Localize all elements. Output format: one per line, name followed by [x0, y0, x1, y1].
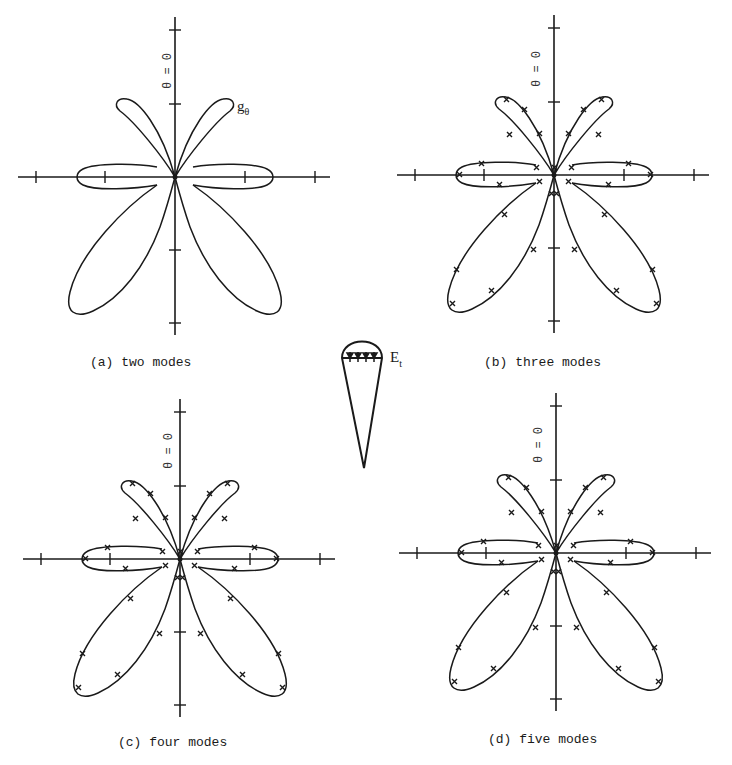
caption-b: (b) three modes: [484, 355, 601, 370]
caption-d: (d) five modes: [488, 732, 597, 747]
panel-b: θ = 0: [397, 15, 709, 333]
curve-label: gθ: [237, 98, 250, 117]
theta-axis-label: θ = 0: [530, 51, 544, 87]
panel-c: θ = 0: [23, 399, 335, 717]
horn-shape: [342, 342, 382, 469]
figure: θ = 0 gθ (a) two modes θ = 0 (b) three m…: [0, 0, 732, 765]
aperture-schematic: Et: [342, 342, 402, 469]
panel-d: θ = 0: [399, 393, 711, 711]
theta-axis-label: θ = 0: [161, 53, 175, 89]
caption-c: (c) four modes: [118, 735, 227, 750]
panel-a: θ = 0 gθ: [18, 17, 330, 335]
theta-axis-label: θ = 0: [532, 427, 546, 463]
field-label: Et: [390, 349, 402, 369]
caption-a: (a) two modes: [90, 355, 191, 370]
theta-axis-label: θ = 0: [162, 433, 176, 469]
